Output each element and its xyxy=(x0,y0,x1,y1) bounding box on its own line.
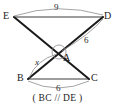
geometry-figure: EDABC 96x6 ( BC // DE ) xyxy=(0,0,115,108)
vertex-label-a: A xyxy=(63,53,70,63)
vertex-label-e: E xyxy=(3,11,9,21)
measure-DA-label: 6 xyxy=(84,36,89,45)
measure-arcs-group xyxy=(14,9,103,88)
segment-EC xyxy=(14,17,89,79)
figure-caption: ( BC // DE ) xyxy=(0,93,115,103)
vertex-label-c: C xyxy=(91,73,98,83)
measure-BC-label: 6 xyxy=(56,84,61,93)
vertex-label-b: B xyxy=(17,73,24,83)
measure-ED-label: 9 xyxy=(54,3,59,12)
measure-BA-label: x xyxy=(35,58,39,67)
segment-DB xyxy=(28,17,103,79)
vertex-label-d: D xyxy=(104,11,111,21)
segments-group xyxy=(14,17,103,79)
